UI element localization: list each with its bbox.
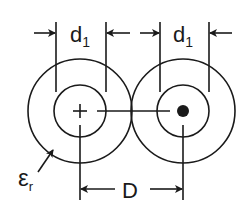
dot-marker-icon — [177, 105, 189, 117]
two-wire-line-diagram: d1 d1 D εr — [0, 0, 246, 212]
d1-left-subscript: 1 — [82, 34, 90, 50]
d1-right-label: d — [173, 22, 185, 47]
svg-text:d1: d1 — [173, 22, 193, 50]
permittivity-subscript: r — [29, 179, 34, 194]
svg-text:d1: d1 — [70, 22, 90, 50]
permittivity-label: ε — [18, 164, 29, 191]
permittivity-leader — [38, 150, 53, 172]
svg-text:εr: εr — [18, 164, 34, 194]
d1-left-label: d — [70, 22, 82, 47]
plus-marker-icon — [73, 104, 87, 118]
spacing-label: D — [122, 178, 138, 203]
d1-right-subscript: 1 — [185, 34, 193, 50]
